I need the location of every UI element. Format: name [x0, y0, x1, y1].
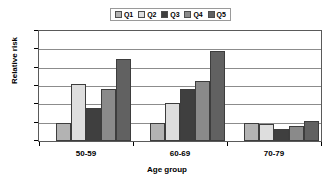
x-tick-label: 60-69 [140, 149, 220, 158]
legend-entry-q5: Q5 [208, 11, 226, 18]
y-axis-title: Relative risk [10, 11, 19, 111]
bar-q3-60-69 [180, 89, 195, 141]
bar-q2-60-69 [165, 103, 180, 142]
x-tick-label: 50-59 [46, 149, 126, 158]
bar-q4-60-69 [195, 81, 210, 141]
legend-label: Q1 [124, 11, 133, 18]
bar-q1-70-79 [244, 123, 259, 141]
legend-swatch-icon [161, 11, 168, 18]
bars-layer [39, 31, 321, 141]
x-tick-mark [39, 142, 40, 146]
legend-entry-q4: Q4 [184, 11, 202, 18]
bar-q5-70-79 [304, 121, 319, 141]
legend-swatch-icon [208, 11, 215, 18]
bar-q5-50-59 [116, 59, 131, 141]
legend-entry-q2: Q2 [138, 11, 156, 18]
bar-q3-50-59 [86, 108, 101, 141]
bar-q2-50-59 [71, 84, 86, 141]
legend-swatch-icon [138, 11, 145, 18]
legend-entry-q3: Q3 [161, 11, 179, 18]
x-tick-label: 70-79 [234, 149, 314, 158]
legend-label: Q4 [193, 11, 202, 18]
bar-q1-60-69 [150, 123, 165, 141]
bar-q1-50-59 [56, 123, 71, 141]
bar-q3-70-79 [274, 129, 289, 141]
bar-q4-50-59 [101, 89, 116, 141]
legend-label: Q5 [217, 11, 226, 18]
x-axis-title: Age group [0, 165, 334, 174]
x-tick-mark [227, 142, 228, 146]
legend-entry-q1: Q1 [115, 11, 133, 18]
bar-q2-70-79 [259, 124, 274, 141]
legend-swatch-icon [184, 11, 191, 18]
legend-swatch-icon [115, 11, 122, 18]
legend-label: Q2 [147, 11, 156, 18]
bar-chart: Q1Q2Q3Q4Q5 0123456 Relative risk Age gro… [0, 0, 334, 182]
chart-legend: Q1Q2Q3Q4Q5 [110, 8, 231, 21]
x-tick-mark [133, 142, 134, 146]
bar-group [227, 31, 334, 141]
x-tick-mark [321, 142, 322, 146]
legend-label: Q3 [170, 11, 179, 18]
bar-q4-70-79 [289, 126, 304, 141]
bar-q5-60-69 [210, 51, 225, 141]
